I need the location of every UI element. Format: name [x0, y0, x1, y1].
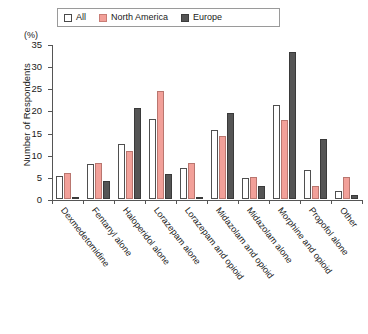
bar	[320, 139, 327, 199]
y-tick-label-30: 30	[31, 62, 42, 72]
legend-item-north-america: North America	[99, 13, 168, 22]
y-tick-label-20: 20	[31, 107, 42, 117]
bar-group	[304, 44, 327, 199]
x-tick	[300, 200, 301, 204]
y-tick-label-15: 15	[31, 129, 42, 139]
bar	[72, 197, 79, 199]
y-tick-label-0: 0	[37, 195, 42, 205]
legend-label-europe: Europe	[193, 13, 222, 22]
bar	[157, 91, 164, 199]
bar	[134, 108, 141, 199]
legend-item-all: All	[64, 13, 86, 22]
x-tick	[114, 200, 115, 204]
bar	[64, 173, 71, 199]
x-axis-label: Lorazepam and opioid	[182, 206, 244, 282]
bar	[165, 174, 172, 199]
x-tick	[176, 200, 177, 204]
y-tick-15: 15	[48, 134, 52, 135]
bar	[149, 119, 156, 199]
bar	[126, 151, 133, 199]
bar	[188, 163, 195, 199]
bar-group	[118, 44, 141, 199]
bar	[196, 197, 203, 199]
bar-chart: All North America Europe (%) Number of R…	[0, 0, 368, 334]
bar	[289, 52, 296, 199]
bar	[180, 168, 187, 199]
y-tick-label-5: 5	[37, 173, 42, 183]
y-tick-label-25: 25	[31, 85, 42, 95]
x-axis-label: Midazolam and opioid	[213, 206, 274, 281]
legend-label-north-america: North America	[111, 13, 168, 22]
x-tick	[145, 200, 146, 204]
bar-group	[180, 44, 203, 199]
bar-group	[335, 44, 358, 199]
x-tick	[83, 200, 84, 204]
bar	[211, 130, 218, 199]
legend-item-europe: Europe	[181, 13, 222, 22]
legend-swatch-north-america-icon	[99, 14, 107, 22]
bar	[118, 144, 125, 199]
bar	[219, 136, 226, 199]
y-tick-20: 20	[48, 111, 52, 112]
bar	[242, 178, 249, 199]
x-tick	[207, 200, 208, 204]
plot-area: 05101520253035	[52, 45, 362, 200]
y-tick-30: 30	[48, 67, 52, 68]
bar	[273, 105, 280, 199]
x-axis-label: Other	[337, 206, 358, 229]
bar	[343, 177, 350, 199]
x-tick	[52, 200, 53, 204]
bar	[312, 186, 319, 199]
bar	[103, 181, 110, 199]
y-tick-35: 35	[48, 45, 52, 46]
y-tick-5: 5	[48, 178, 52, 179]
bar-group	[242, 44, 265, 199]
y-tick-25: 25	[48, 89, 52, 90]
bar	[304, 170, 311, 199]
bar	[281, 120, 288, 199]
legend-swatch-all-icon	[64, 14, 72, 22]
bar	[335, 191, 342, 199]
y-tick-label-10: 10	[31, 151, 42, 161]
bar-group	[211, 44, 234, 199]
legend-swatch-europe-icon	[181, 14, 189, 22]
bar	[258, 186, 265, 199]
x-tick	[331, 200, 332, 204]
bar	[56, 176, 63, 199]
bar	[250, 177, 257, 199]
x-tick	[269, 200, 270, 204]
y-axis-line	[52, 45, 53, 201]
y-tick-label-35: 35	[31, 40, 42, 50]
chart-legend: All North America Europe	[57, 8, 280, 27]
bar-group	[149, 44, 172, 199]
y-axis-title: Number of Respondents	[22, 40, 32, 190]
x-tick	[362, 200, 363, 204]
bar	[227, 113, 234, 199]
y-tick-10: 10	[48, 156, 52, 157]
bar-group	[87, 44, 110, 199]
bar	[351, 195, 358, 199]
bar-group	[56, 44, 79, 199]
bar	[87, 164, 94, 199]
legend-label-all: All	[76, 13, 86, 22]
bar	[95, 163, 102, 199]
x-tick	[238, 200, 239, 204]
bar-group	[273, 44, 296, 199]
